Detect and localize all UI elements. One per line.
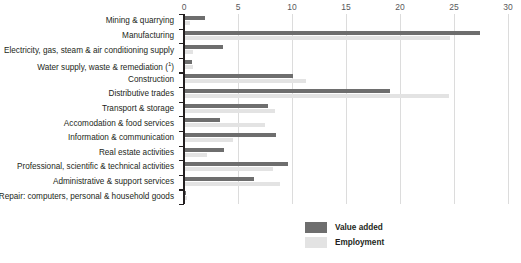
bar-chart: 051015202530 Mining & quarryingManufactu… bbox=[0, 0, 521, 263]
x-tick-label: 0 bbox=[182, 2, 187, 12]
bar-row bbox=[184, 14, 508, 29]
bar-row bbox=[184, 87, 508, 102]
x-axis-tick-labels: 051015202530 bbox=[184, 2, 508, 14]
bar-value-added bbox=[184, 177, 254, 181]
bar-employment bbox=[184, 50, 193, 54]
category-axis-labels: Mining & quarryingManufacturingElectrici… bbox=[0, 14, 180, 204]
x-tick-label: 10 bbox=[287, 2, 296, 12]
bar-row bbox=[184, 175, 508, 190]
x-tick-label: 25 bbox=[449, 2, 458, 12]
category-label: Water supply, waste & remediation (1) bbox=[37, 60, 174, 72]
bar-employment bbox=[184, 79, 306, 83]
category-label: Professional, scientific & technical act… bbox=[17, 162, 174, 171]
bar-employment bbox=[184, 94, 449, 98]
bar-employment bbox=[184, 65, 193, 69]
bar-value-added bbox=[184, 104, 268, 108]
bar-value-added bbox=[184, 60, 192, 64]
bar-value-added bbox=[184, 16, 205, 20]
bar-rows bbox=[184, 14, 508, 204]
category-label: Information & communication bbox=[68, 133, 174, 142]
bar-employment bbox=[184, 167, 273, 171]
legend-item-employment: Employment bbox=[305, 237, 384, 248]
bar-row bbox=[184, 116, 508, 131]
category-label: Transport & storage bbox=[102, 104, 174, 113]
bar-value-added bbox=[184, 89, 390, 93]
x-tick-label: 30 bbox=[503, 2, 512, 12]
bar-value-added bbox=[184, 118, 220, 122]
bar-row bbox=[184, 102, 508, 117]
bar-employment bbox=[184, 109, 275, 113]
category-axis-spine bbox=[183, 14, 185, 204]
bar-row bbox=[184, 160, 508, 175]
bar-value-added bbox=[184, 45, 223, 49]
category-label: Manufacturing bbox=[122, 31, 174, 40]
legend-swatch-value-added bbox=[305, 222, 327, 233]
bar-row bbox=[184, 43, 508, 58]
legend-item-value-added: Value added bbox=[305, 222, 384, 233]
bar-employment bbox=[184, 36, 450, 40]
category-label: Construction bbox=[128, 75, 174, 84]
legend-label-value-added: Value added bbox=[335, 223, 383, 232]
category-label: Real estate activities bbox=[99, 148, 174, 157]
category-label: Electricity, gas, steam & air conditioni… bbox=[4, 46, 174, 55]
category-label: Mining & quarrying bbox=[106, 16, 174, 25]
bar-value-added bbox=[184, 162, 288, 166]
plot-area bbox=[184, 14, 508, 204]
bar-value-added bbox=[184, 31, 480, 35]
bar-employment bbox=[184, 138, 233, 142]
category-label: Administrative & support services bbox=[53, 177, 174, 186]
bar-value-added bbox=[184, 148, 224, 152]
bar-employment bbox=[184, 182, 280, 186]
bar-row bbox=[184, 72, 508, 87]
bar-value-added bbox=[184, 74, 293, 78]
x-tick-label: 20 bbox=[395, 2, 404, 12]
category-tick bbox=[179, 204, 184, 205]
legend-label-employment: Employment bbox=[335, 238, 384, 247]
x-tick-label: 15 bbox=[341, 2, 350, 12]
legend-swatch-employment bbox=[305, 237, 327, 248]
bar-employment bbox=[184, 153, 207, 157]
gridline bbox=[508, 14, 509, 204]
bar-row bbox=[184, 131, 508, 146]
bar-row bbox=[184, 146, 508, 161]
x-tick-label: 5 bbox=[236, 2, 241, 12]
category-label: Distributive trades bbox=[108, 89, 174, 98]
bar-value-added bbox=[184, 133, 276, 137]
bar-row bbox=[184, 189, 508, 204]
category-label: Repair: computers, personal & household … bbox=[0, 192, 174, 201]
bar-row bbox=[184, 29, 508, 44]
bar-row bbox=[184, 58, 508, 73]
chart-legend: Value added Employment bbox=[305, 222, 384, 252]
bar-employment bbox=[184, 123, 265, 127]
category-label: Accomodation & food services bbox=[64, 119, 174, 128]
